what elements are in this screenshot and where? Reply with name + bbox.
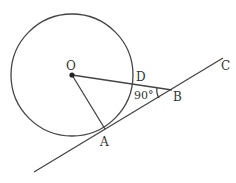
tangent-line-ac xyxy=(34,58,223,172)
label-o: O xyxy=(66,59,76,73)
label-c: C xyxy=(221,59,230,73)
angle-arc-b xyxy=(157,88,159,98)
segment-oa xyxy=(72,75,105,129)
label-d: D xyxy=(136,70,146,84)
label-b: B xyxy=(173,90,182,104)
label-a: A xyxy=(99,135,109,149)
geometry-diagram: O D 90° B A C xyxy=(0,0,236,183)
segment-ob xyxy=(72,75,172,90)
label-angle-90: 90° xyxy=(134,89,154,102)
center-point-o xyxy=(69,72,74,77)
